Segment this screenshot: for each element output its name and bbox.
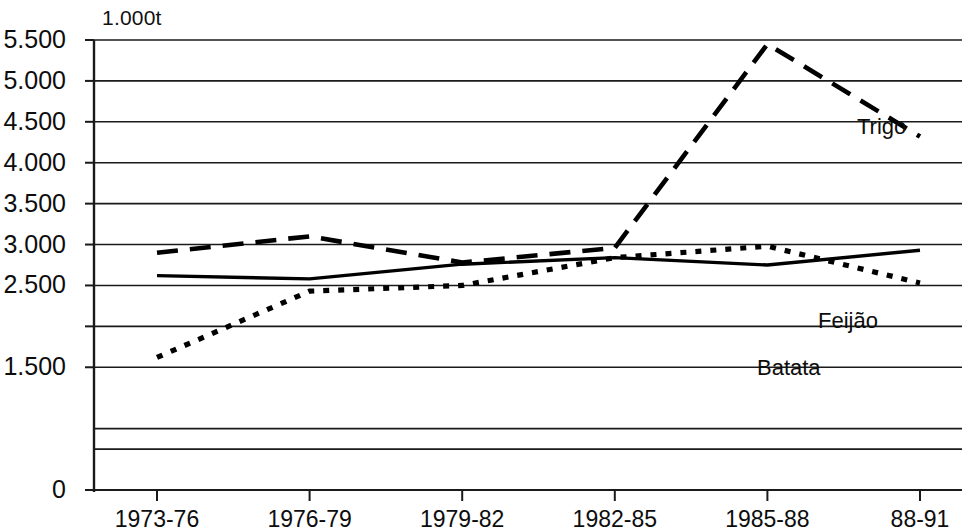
y-axis-tick-labels: 01.5002.5003.0003.5004.0004.5005.0005.50… <box>0 0 66 532</box>
y-axis-tick-label: 4.000 <box>3 150 66 175</box>
x-axis-tick-label: 1982-85 <box>573 508 657 531</box>
x-axis-tick-label: 1985-88 <box>725 508 809 531</box>
y-axis-tick-label: 1.500 <box>3 354 66 379</box>
x-axis-tick-label: 1973-76 <box>115 508 199 531</box>
x-axis-tick-label: 1979-82 <box>420 508 504 531</box>
axis-tick-marks <box>85 40 920 501</box>
plot-area <box>0 0 970 532</box>
y-axis-tick-label: 0 <box>52 477 66 502</box>
series-line-feijo <box>157 250 920 279</box>
gridlines <box>94 40 962 490</box>
y-axis-tick-label: 3.000 <box>3 232 66 257</box>
y-axis-tick-label: 5.000 <box>3 68 66 93</box>
series-line-trigo <box>157 44 920 262</box>
series-label-trigo: Trigo <box>857 116 906 138</box>
y-axis-tick-label: 5.500 <box>3 27 66 52</box>
y-axis-unit-label: 1.000t <box>102 6 162 30</box>
y-axis-tick-label: 2.500 <box>3 272 66 297</box>
data-series-lines <box>157 44 920 357</box>
x-axis-tick-label: 1976-79 <box>267 508 351 531</box>
chart-container: 1.000t 01.5002.5003.0003.5004.0004.5005.… <box>0 0 970 532</box>
x-axis-tick-label: 88-91 <box>891 508 950 531</box>
y-axis-tick-label: 3.500 <box>3 191 66 216</box>
series-label-batata: Batata <box>757 357 821 379</box>
y-axis-tick-label: 4.500 <box>3 109 66 134</box>
series-label-feijo: Feijão <box>818 310 878 332</box>
